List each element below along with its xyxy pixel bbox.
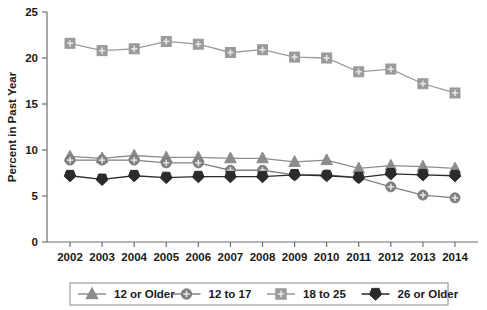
series-18-to-25-point-2010 <box>322 53 332 63</box>
series-12-to-17-point-2005 <box>161 158 171 168</box>
series-26-or-older-point-2014-diamond <box>449 170 461 181</box>
series-18-to-25-point-2011 <box>354 67 364 77</box>
x-tick-label-2014: 2014 <box>442 251 468 263</box>
series-26-or-older-point-2010 <box>321 170 333 181</box>
series-18-to-25-point-2007 <box>225 47 235 57</box>
series-12-to-17-point-2003 <box>97 155 107 165</box>
series-26-or-older-point-2005 <box>161 172 173 183</box>
series-12-or-older-point-2008-triangle <box>257 152 269 163</box>
x-tick-label-2008: 2008 <box>250 251 276 263</box>
series-26-or-older-point-2012-diamond <box>385 169 397 180</box>
x-tick-label-2003: 2003 <box>89 251 115 263</box>
x-tick-label-2006: 2006 <box>186 251 212 263</box>
legend-item-26-or-older[interactable]: 26 or Older <box>362 288 459 300</box>
series-18-to-25-point-2005 <box>161 36 171 46</box>
series-26-or-older-point-2004 <box>128 170 140 181</box>
series-26-or-older <box>64 169 461 186</box>
series-26-or-older-point-2003-diamond <box>96 174 108 185</box>
series-12-or-older-point-2007 <box>225 152 237 163</box>
legend-item-18-to-25[interactable]: 18 to 25 <box>267 288 346 300</box>
series-26-or-older-point-2008-diamond <box>257 171 269 182</box>
series-12-or-older-point-2008 <box>257 152 269 163</box>
x-tick-label-2005: 2005 <box>153 251 179 263</box>
y-tick-label-20: 20 <box>25 52 38 64</box>
series-18-to-25-point-2012 <box>386 64 396 74</box>
series-26-or-older-point-2008 <box>257 171 269 182</box>
x-tick-label-2011: 2011 <box>346 251 372 263</box>
x-tick-label-2012: 2012 <box>378 251 404 263</box>
series-26-or-older-point-2003 <box>96 174 108 185</box>
series-12-or-older-point-2010 <box>321 154 333 165</box>
chart-figure: 0510152025Percent in Past Year2002200320… <box>0 0 487 310</box>
legend-label-0: 12 or Older <box>114 288 175 300</box>
legend-label-1: 12 to 17 <box>209 288 252 300</box>
series-18-to-25-point-2008 <box>258 45 268 55</box>
x-tick-label-2009: 2009 <box>282 251 308 263</box>
series-26-or-older-point-2013-diamond <box>417 169 429 180</box>
series-26-or-older-point-2010-diamond <box>321 170 333 181</box>
legend-item-12-or-older[interactable]: 12 or Older <box>78 288 175 301</box>
series-18-to-25 <box>65 36 460 98</box>
x-tick-label-2002: 2002 <box>57 251 83 263</box>
series-12-or-older-point-2010-triangle <box>321 154 333 165</box>
series-26-or-older-point-2011 <box>353 172 365 183</box>
series-26-or-older-point-2002 <box>64 170 76 181</box>
x-tick-label-2007: 2007 <box>218 251 244 263</box>
series-26-or-older-point-2011-diamond <box>353 172 365 183</box>
series-18-to-25-point-2002 <box>65 38 75 48</box>
series-26-or-older-point-2006-diamond <box>193 171 205 182</box>
series-12-or-older-point-2007-triangle <box>225 152 237 163</box>
x-tick-label-2004: 2004 <box>121 251 147 263</box>
chart-legend: 12 or Older12 to 1718 to 2526 or Older <box>70 283 459 305</box>
series-12-to-17-point-2014 <box>450 193 460 203</box>
series-26-or-older-point-2006 <box>193 171 205 182</box>
series-26-or-older-point-2009-diamond <box>289 169 301 180</box>
series-18-to-25-point-2004 <box>129 44 139 54</box>
series-12-to-17-point-2013 <box>418 190 428 200</box>
series-26-or-older-point-2014 <box>449 170 461 181</box>
series-12-to-17-point-2006 <box>193 158 203 168</box>
series-26-or-older-point-2012 <box>385 169 397 180</box>
x-tick-label-2013: 2013 <box>410 251 436 263</box>
series-18-to-25-point-2009 <box>290 52 300 62</box>
series-12-to-17-point-2002 <box>65 155 75 165</box>
x-tick-label-2010: 2010 <box>314 251 340 263</box>
series-26-or-older-point-2004-diamond <box>128 170 140 181</box>
series-26-or-older-point-2005-diamond <box>161 172 173 183</box>
series-18-to-25-point-2006 <box>193 39 203 49</box>
line-chart: 0510152025Percent in Past Year2002200320… <box>0 0 487 310</box>
y-tick-label-25: 25 <box>25 6 38 18</box>
y-tick-label-0: 0 <box>32 236 38 248</box>
legend-marker-circle <box>181 289 191 299</box>
legend-label-2: 18 to 25 <box>303 288 346 300</box>
series-18-to-25-point-2003 <box>97 46 107 56</box>
series-18-to-25-point-2014 <box>450 88 460 98</box>
series-26-or-older-point-2013 <box>417 169 429 180</box>
y-tick-label-15: 15 <box>25 98 38 110</box>
series-26-or-older-point-2009 <box>289 169 301 180</box>
series-18-to-25-point-2013 <box>418 79 428 89</box>
series-12-to-17-point-2012 <box>386 182 396 192</box>
series-26-or-older-point-2002-diamond <box>64 170 76 181</box>
legend-label-3: 26 or Older <box>398 288 459 300</box>
series-26-or-older-point-2007 <box>225 171 237 182</box>
y-axis-title: Percent in Past Year <box>6 71 18 182</box>
y-tick-label-10: 10 <box>25 144 38 156</box>
y-tick-label-5: 5 <box>32 190 39 202</box>
legend-marker-square <box>276 289 286 299</box>
series-26-or-older-point-2007-diamond <box>225 171 237 182</box>
series-12-to-17-point-2004 <box>129 155 139 165</box>
legend-item-12-to-17[interactable]: 12 to 17 <box>173 288 252 300</box>
